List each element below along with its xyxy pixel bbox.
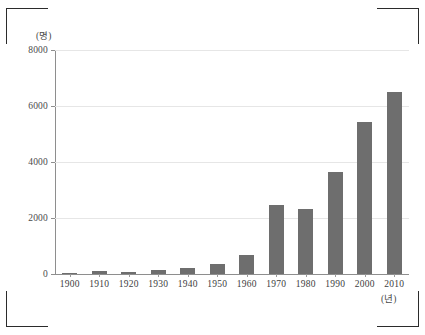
x-tick-label: 2000 (355, 279, 375, 289)
x-tick-label: 1990 (325, 279, 345, 289)
x-tick-mark (276, 274, 277, 277)
y-tick-label: 8000 (28, 45, 48, 55)
y-tick-label: 0 (43, 269, 48, 279)
y-tick-label: 6000 (28, 101, 48, 111)
x-tick-label: 1970 (266, 279, 286, 289)
y-tick-mark (51, 274, 55, 275)
y-tick-label: 4000 (28, 157, 48, 167)
bar (210, 264, 225, 274)
bar-chart: (명) 02000400060008000 190019101920193019… (0, 0, 425, 335)
x-tick-mark (158, 274, 159, 277)
bar (298, 209, 313, 274)
bar (269, 205, 284, 274)
x-tick-label: 1930 (148, 279, 168, 289)
x-tick-mark (70, 274, 71, 277)
bar (239, 255, 254, 274)
x-tick-mark (247, 274, 248, 277)
x-tick-mark (188, 274, 189, 277)
x-tick-label: 1900 (60, 279, 80, 289)
bar-series (55, 50, 409, 274)
x-tick-label: 2010 (384, 279, 404, 289)
plot-area: 02000400060008000 1900191019201930194019… (55, 50, 409, 274)
x-tick-label: 1940 (178, 279, 198, 289)
y-axis-unit-label: (명) (36, 28, 51, 42)
y-tick-label: 2000 (28, 213, 48, 223)
x-tick-mark (306, 274, 307, 277)
x-tick-label: 1950 (207, 279, 227, 289)
x-tick-mark (129, 274, 130, 277)
chart-page: (명) 02000400060008000 190019101920193019… (0, 0, 425, 335)
x-axis-line (55, 274, 409, 275)
x-tick-mark (365, 274, 366, 277)
x-tick-mark (99, 274, 100, 277)
x-tick-mark (217, 274, 218, 277)
x-tick-mark (394, 274, 395, 277)
bar (328, 172, 343, 274)
x-tick-mark (335, 274, 336, 277)
x-tick-label: 1960 (237, 279, 257, 289)
x-tick-label: 1980 (296, 279, 316, 289)
x-axis-unit-label: (년) (381, 291, 396, 305)
bar (357, 122, 372, 274)
bar (387, 92, 402, 274)
x-tick-label: 1920 (119, 279, 139, 289)
x-tick-label: 1910 (89, 279, 109, 289)
